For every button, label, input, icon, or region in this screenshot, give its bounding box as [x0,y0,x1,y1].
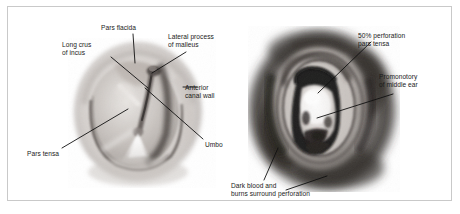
label-umbo: Umbo [205,141,223,149]
label-50-percent-perforation-pars-tensa: 50% perforation pars tensa [358,32,405,48]
label-dark-blood-and-burns-surround-perforation: Dark blood and burns surround perforatio… [231,182,310,198]
label-anterior-canal-wall: Anterior canal wall [185,84,214,100]
label-pars-tensa: Pars tensa [27,150,59,158]
label-lateral-process-of-malleus: Lateral process of malleus [168,33,214,49]
label-pars-flacida: Pars flacida [101,24,136,32]
normal-tympanic-membrane-image [68,38,216,188]
perforated-tympanic-membrane-image [248,26,400,192]
label-promonotory-of-middle-ear: Promonotory of middle ear [379,73,418,89]
figure-root: Pars flacida Long crus of incus Lateral … [0,0,460,214]
label-long-crus-of-incus: Long crus of incus [62,41,91,57]
